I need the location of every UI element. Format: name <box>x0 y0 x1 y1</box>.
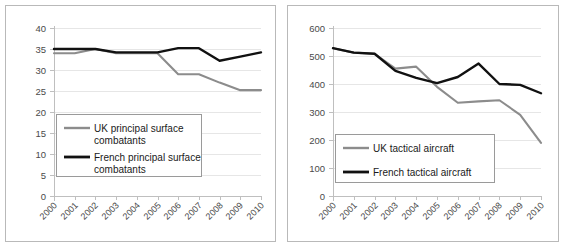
x-axis-tick-label: 2010 <box>525 200 546 221</box>
x-axis-tick-labels-right: 2000200120022003200420052006200720082009… <box>317 200 546 221</box>
line-chart-tactical-aircraft: 0100200300400500600 20002001200220032004… <box>288 6 558 241</box>
legend-label: combatants <box>94 164 146 175</box>
x-axis-tick-label: 2003 <box>100 200 121 221</box>
x-axis-tick-label: 2007 <box>183 200 204 221</box>
y-axis-tick-label: 400 <box>309 79 325 90</box>
y-axis-tick-label: 20 <box>35 107 46 118</box>
x-axis-tick-label: 2006 <box>162 200 183 221</box>
y-axis-tick-labels-left: 0510152025303540 <box>35 23 46 202</box>
x-axis-tick-label: 2000 <box>38 200 59 221</box>
chart-panel-left: 0510152025303540 20002001200220032004200… <box>5 5 276 242</box>
x-axis-tick-label: 2008 <box>483 200 504 221</box>
y-axis-tick-labels-right: 0100200300400500600 <box>309 23 325 202</box>
x-axis-tick-label: 2009 <box>504 200 525 221</box>
chart-panel-right: 0100200300400500600 20002001200220032004… <box>287 5 559 242</box>
x-axis-tick-label: 2006 <box>442 200 463 221</box>
figure-container: 0510152025303540 20002001200220032004200… <box>0 0 564 247</box>
y-axis-tick-label: 500 <box>309 51 325 62</box>
x-axis-tick-label: 2000 <box>317 200 338 221</box>
y-axis-tick-label: 0 <box>41 191 46 202</box>
legend-label: French tactical aircraft <box>373 167 472 178</box>
legend-left: UK principal surfacecombatantsFrench pri… <box>57 115 202 177</box>
line-chart-principal-surface-combatants: 0510152025303540 20002001200220032004200… <box>6 6 275 241</box>
legend-right: UK tactical aircraftFrench tactical airc… <box>336 135 495 183</box>
x-axis-tick-label: 2005 <box>421 200 442 221</box>
y-axis-tick-label: 40 <box>35 23 46 34</box>
x-axis-tick-label: 2010 <box>245 200 266 221</box>
x-axis-tick-label: 2003 <box>379 200 400 221</box>
x-axis-tick-label: 2001 <box>59 200 80 221</box>
y-axis-tick-label: 300 <box>309 107 325 118</box>
y-axis-tick-label: 5 <box>41 170 46 181</box>
x-axis-tick-label: 2004 <box>121 200 142 221</box>
y-axis-tick-label: 30 <box>35 65 46 76</box>
y-axis-tick-label: 15 <box>35 128 46 139</box>
x-axis-tick-labels-left: 2000200120022003200420052006200720082009… <box>38 200 266 221</box>
y-axis-tick-label: 35 <box>35 44 46 55</box>
y-axis-tick-label: 10 <box>35 149 46 160</box>
data-series-right <box>333 48 541 143</box>
x-axis-tick-label: 2007 <box>463 200 484 221</box>
legend-label: UK principal surface <box>94 123 184 134</box>
y-axis-tick-label: 100 <box>309 163 325 174</box>
y-axis-tick-label: 600 <box>309 23 325 34</box>
y-axis-tick-label: 0 <box>320 191 325 202</box>
legend-label: French principal surface <box>94 152 201 163</box>
x-axis-tick-label: 2008 <box>204 200 225 221</box>
data-series-left <box>54 48 261 90</box>
series-line-uk <box>333 48 541 143</box>
y-axis-tick-label: 200 <box>309 135 325 146</box>
x-axis-tick-label: 2004 <box>400 200 421 221</box>
x-axis-tick-label: 2005 <box>142 200 163 221</box>
x-axis-tick-label: 2002 <box>359 200 380 221</box>
x-axis-tick-label: 2001 <box>338 200 359 221</box>
x-axis-tick-label: 2002 <box>79 200 100 221</box>
legend-label: UK tactical aircraft <box>373 143 454 154</box>
legend-label: combatants <box>94 135 146 146</box>
x-axis-tick-label: 2009 <box>224 200 245 221</box>
series-line-uk <box>54 49 261 90</box>
y-axis-tick-label: 25 <box>35 86 46 97</box>
